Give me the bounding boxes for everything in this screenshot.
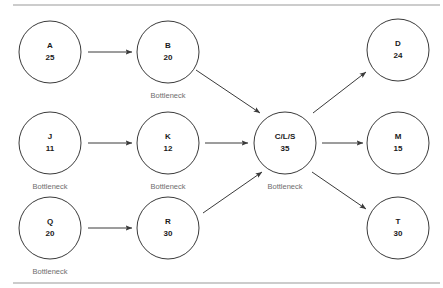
node-letter: K	[165, 132, 171, 141]
node-a[interactable]: A25	[19, 21, 81, 83]
node-layer: A25B20BottleneckJ11BottleneckK12Bottlene…	[19, 19, 429, 276]
process-flow-diagram: A25B20BottleneckJ11BottleneckK12Bottlene…	[0, 0, 443, 288]
node-circle[interactable]	[367, 112, 429, 174]
edge-layer	[88, 52, 366, 228]
edge-cls-to-t	[312, 172, 366, 209]
node-circle[interactable]	[19, 21, 81, 83]
node-circle[interactable]	[137, 112, 199, 174]
node-circle[interactable]	[19, 112, 81, 174]
node-value: 30	[164, 229, 173, 238]
edge-r-to-cls	[203, 172, 262, 213]
node-value: 20	[164, 53, 173, 62]
node-m[interactable]: M15	[367, 112, 429, 174]
node-value: 11	[46, 144, 55, 153]
node-circle[interactable]	[367, 197, 429, 259]
node-letter: T	[396, 217, 401, 226]
node-t[interactable]: T30	[367, 197, 429, 259]
node-circle[interactable]	[137, 21, 199, 83]
bottleneck-label: Bottleneck	[267, 182, 302, 191]
node-circle[interactable]	[254, 112, 316, 174]
node-letter: R	[165, 217, 171, 226]
edge-cls-to-d	[313, 72, 366, 113]
node-circle[interactable]	[19, 197, 81, 259]
node-circle[interactable]	[367, 19, 429, 81]
bottleneck-label: Bottleneck	[150, 182, 185, 191]
node-b[interactable]: B20Bottleneck	[137, 21, 199, 100]
node-letter: B	[165, 41, 171, 50]
node-letter: A	[47, 41, 53, 50]
node-cls[interactable]: C/L/S35Bottleneck	[254, 112, 316, 191]
diagram-canvas: A25B20BottleneckJ11BottleneckK12Bottlene…	[0, 0, 443, 288]
bottleneck-label: Bottleneck	[32, 267, 67, 276]
node-j[interactable]: J11Bottleneck	[19, 112, 81, 191]
node-letter: Q	[47, 217, 53, 226]
node-letter: C/L/S	[275, 132, 296, 141]
node-q[interactable]: Q20Bottleneck	[19, 197, 81, 276]
node-value: 25	[46, 53, 55, 62]
node-letter: D	[395, 39, 401, 48]
node-d[interactable]: D24	[367, 19, 429, 81]
node-value: 35	[281, 144, 290, 153]
node-letter: J	[48, 132, 52, 141]
bottleneck-label: Bottleneck	[32, 182, 67, 191]
node-r[interactable]: R30	[137, 197, 199, 259]
bottleneck-label: Bottleneck	[150, 91, 185, 100]
node-value: 12	[164, 144, 173, 153]
node-value: 15	[394, 144, 403, 153]
node-circle[interactable]	[137, 197, 199, 259]
node-value: 20	[46, 229, 55, 238]
node-value: 30	[394, 229, 403, 238]
node-letter: M	[395, 132, 402, 141]
edge-b-to-cls	[196, 70, 260, 113]
node-k[interactable]: K12Bottleneck	[137, 112, 199, 191]
node-value: 24	[394, 51, 403, 60]
